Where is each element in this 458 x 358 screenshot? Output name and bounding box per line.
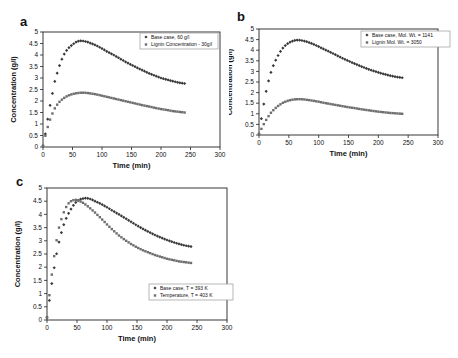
data-point-marker — [169, 109, 171, 111]
data-point-marker — [167, 109, 169, 111]
data-point-marker — [96, 214, 98, 216]
panel-a-label: a — [20, 15, 27, 28]
data-point-marker — [279, 103, 281, 105]
y-tick-label: 2 — [250, 89, 254, 96]
x-tick-label: 100 — [97, 151, 108, 158]
data-point-marker — [353, 107, 355, 109]
data-point-marker — [115, 98, 117, 100]
data-point-marker — [91, 209, 93, 211]
data-point-marker — [139, 103, 141, 105]
legend-label: Base case, 60 g/l — [151, 34, 189, 40]
data-point-marker — [341, 105, 343, 107]
data-point-marker — [171, 259, 173, 261]
data-point-marker — [99, 216, 101, 218]
data-point-marker — [168, 258, 170, 260]
y-tick-label: 0.5 — [29, 132, 38, 139]
data-point-marker — [270, 112, 272, 114]
data-point-marker — [157, 107, 159, 109]
y-tick-label: 3.5 — [245, 57, 254, 64]
data-point-marker — [84, 92, 86, 94]
data-point-marker — [84, 203, 86, 205]
data-point-marker — [325, 102, 327, 104]
data-point-marker — [181, 111, 183, 113]
data-point-marker — [49, 118, 51, 120]
data-point-marker — [282, 102, 284, 104]
data-point-marker — [72, 199, 74, 201]
x-tick-label: 100 — [102, 324, 113, 331]
x-tick-label: 250 — [403, 139, 414, 146]
data-point-marker — [103, 221, 105, 223]
data-point-marker — [113, 97, 115, 99]
y-tick-label: 4 — [250, 46, 254, 53]
y-tick-label: 5 — [38, 184, 42, 191]
data-point-marker — [117, 98, 119, 100]
y-tick-label: 4.5 — [29, 40, 38, 47]
x-tick-label: 50 — [285, 139, 293, 146]
data-point-marker — [185, 261, 187, 263]
y-tick-label: 3 — [38, 237, 42, 244]
panel-c: 05010015020025030000.511.522.533.544.55T… — [0, 172, 240, 358]
data-point-marker — [148, 105, 150, 107]
y-tick-label: 5 — [34, 28, 38, 35]
y-tick-label: 4.5 — [33, 197, 42, 204]
data-point-marker — [80, 92, 82, 94]
x-tick-label: 100 — [313, 139, 324, 146]
data-point-marker — [322, 102, 324, 104]
data-point-marker — [96, 93, 98, 95]
data-point-marker — [176, 110, 178, 112]
data-point-marker — [65, 95, 67, 97]
data-point-marker — [123, 238, 125, 240]
data-point-marker — [127, 241, 129, 243]
data-point-marker — [82, 92, 84, 94]
x-tick-label: 0 — [41, 151, 45, 158]
data-point-marker — [267, 115, 269, 117]
panel-c-plot: 05010015020025030000.511.522.533.544.55T… — [0, 172, 240, 358]
data-point-marker — [63, 211, 65, 213]
x-tick-label: 150 — [126, 151, 137, 158]
data-point-marker — [61, 98, 63, 100]
data-point-marker — [344, 105, 346, 107]
y-tick-label: 0 — [250, 131, 254, 138]
data-point-marker — [51, 273, 53, 275]
data-point-marker — [120, 99, 122, 101]
panel-a: 05010015020025030000.511.522.533.544.55T… — [0, 0, 229, 172]
data-point-marker — [154, 294, 156, 296]
data-point-marker — [106, 223, 108, 225]
y-tick-label: 1 — [34, 120, 38, 127]
y-tick-label: 2.5 — [29, 86, 38, 93]
data-point-marker — [296, 98, 298, 100]
data-point-marker — [70, 93, 72, 95]
data-point-marker — [277, 105, 279, 107]
data-point-marker — [134, 102, 136, 104]
y-axis-title: Concentration (g/l) — [229, 48, 234, 115]
data-point-marker — [129, 101, 131, 103]
y-axis-title: Concentration (g/l) — [9, 56, 18, 123]
data-point-marker — [313, 100, 315, 102]
data-point-marker — [113, 230, 115, 232]
x-axis-title: Time (min) — [118, 334, 156, 343]
panel-b-label: b — [237, 10, 245, 23]
data-point-marker — [179, 111, 181, 113]
y-tick-label: 1.5 — [33, 277, 42, 284]
data-point-marker — [308, 99, 310, 101]
data-point-marker — [156, 255, 158, 257]
data-point-marker — [399, 112, 401, 114]
data-point-marker — [389, 112, 391, 114]
x-tick-label: 50 — [69, 151, 77, 158]
data-point-marker — [310, 99, 312, 101]
data-point-marker — [174, 110, 176, 112]
data-point-marker — [358, 108, 360, 110]
data-point-marker — [263, 123, 265, 125]
data-point-marker — [150, 106, 152, 108]
data-point-marker — [87, 92, 89, 94]
data-point-marker — [363, 108, 365, 110]
x-tick-label: 0 — [257, 139, 261, 146]
panel-b-plot: 05010015020025030000.511.522.533.544.55T… — [229, 0, 458, 172]
data-point-marker — [63, 97, 65, 99]
data-point-marker — [144, 250, 146, 252]
data-point-marker — [120, 236, 122, 238]
data-point-marker — [122, 99, 124, 101]
x-tick-label: 200 — [373, 139, 384, 146]
y-tick-label: 4 — [38, 211, 42, 218]
data-point-marker — [127, 101, 129, 103]
